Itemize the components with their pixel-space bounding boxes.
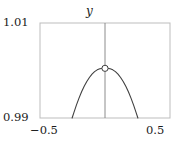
plot-canvas <box>0 0 179 147</box>
plot-figure: y 1.01 0.99 −0.5 0.5 <box>0 0 179 147</box>
peak-open-circle-marker <box>102 65 108 71</box>
